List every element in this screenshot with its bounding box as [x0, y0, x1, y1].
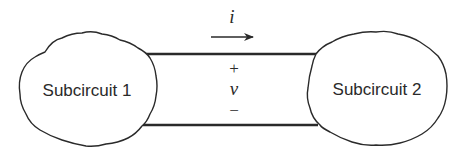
voltage-plus-sign: + — [229, 59, 239, 78]
subcircuit-1-label: Subcircuit 1 — [43, 81, 132, 100]
subcircuit-2-label: Subcircuit 2 — [333, 80, 422, 99]
voltage-minus-sign: − — [229, 101, 239, 120]
circuit-diagram: Subcircuit 1 Subcircuit 2 i + v − — [0, 0, 471, 156]
current-label: i — [229, 6, 234, 27]
voltage-label: v — [230, 78, 239, 99]
subcircuit-1: Subcircuit 1 — [19, 32, 157, 147]
subcircuit-2: Subcircuit 2 — [307, 31, 447, 145]
